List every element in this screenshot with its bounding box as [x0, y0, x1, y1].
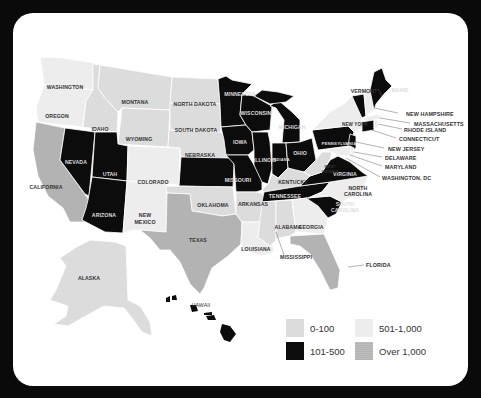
label-indiana: INDIANA [272, 157, 289, 162]
state-new-mexico[interactable] [123, 181, 167, 233]
label-oregon: OREGON [45, 113, 69, 119]
label-maine: MAINE [391, 87, 409, 93]
label-hawaii: HAWAII [192, 302, 211, 308]
label-new-hampshire: NEW HAMPSHIRE [406, 111, 454, 117]
label-montana: MONTANA [122, 99, 149, 105]
legend-swatch-101-500 [286, 342, 304, 360]
label-wyoming: WYOMING [126, 136, 153, 142]
legend-item-101-500: 101-500 [286, 342, 345, 360]
label-delaware: DELAWARE [385, 155, 417, 161]
label-minnesota: MINNESOTA [224, 91, 256, 97]
legend-item-0-100: 0-100 [286, 319, 334, 337]
label-california: CALIFORNIA [30, 184, 63, 190]
label-rhode-island: RHODE ISLAND [404, 127, 446, 133]
label-kansas: KANSAS [195, 185, 218, 191]
label-colorado: COLORADO [137, 179, 168, 185]
label-west-virginia-1: WEST [325, 165, 336, 169]
label-north-dakota: NORTH DAKOTA [174, 101, 217, 107]
label-iowa: IOWA [233, 139, 247, 145]
label-ohio: OHIO [293, 150, 307, 156]
label-new-mexico-1: NEW [139, 212, 151, 218]
label-west-virginia-2: VIRGINIA [322, 170, 339, 174]
label-mississippi: MISSISSIPPI [280, 254, 312, 260]
label-nebraska: NEBRASKA [185, 152, 215, 158]
label-alaska: ALASKA [78, 275, 100, 281]
label-louisiana: LOUISIANA [241, 246, 271, 252]
label-new-mexico-2: MEXICO [134, 219, 155, 225]
label-tennessee: TENNESSEE [269, 193, 302, 199]
label-idaho: IDAHO [91, 126, 108, 132]
state-florida[interactable] [290, 234, 340, 290]
label-washington: WASHINGTON [47, 84, 84, 90]
label-kentucky: KENTUCKY [278, 179, 308, 185]
label-maryland: MARYLAND [385, 164, 416, 170]
state-rhode-island[interactable] [374, 120, 378, 128]
legend-label-101-500: 101-500 [310, 346, 345, 357]
state-alaska[interactable] [50, 240, 152, 336]
label-arizona: ARIZONA [92, 212, 116, 218]
label-new-jersey: NEW JERSEY [388, 146, 425, 152]
label-texas: TEXAS [189, 237, 207, 243]
legend-swatch-0-100 [286, 319, 304, 337]
state-arkansas[interactable] [236, 192, 264, 222]
label-south-carolina-2: CAROLINA [331, 207, 359, 213]
legend-label-501-1000: 501-1,000 [379, 323, 422, 334]
state-michigan[interactable] [270, 100, 300, 143]
label-florida: FLORIDA [366, 262, 391, 268]
state-north-dakota[interactable] [170, 77, 220, 104]
label-missouri: MISSOURI [225, 177, 252, 183]
label-nevada: NEVADA [65, 159, 87, 165]
legend-item-over-1000: Over 1,000 [355, 342, 426, 360]
legend-label-over-1000: Over 1,000 [379, 346, 426, 357]
legend-item-501-1000: 501-1,000 [355, 319, 422, 337]
label-arkansas: ARKANSAS [238, 201, 269, 207]
label-georgia: GEORGIA [298, 224, 323, 230]
label-new-york: NEW YORK [342, 122, 369, 127]
label-connecticut: CONNECTICUT [399, 136, 440, 142]
legend-swatch-501-1000 [355, 319, 373, 337]
label-oklahoma: OKLAHOMA [197, 202, 228, 208]
legend-label-0-100: 0-100 [310, 323, 334, 334]
label-north-carolina-2: CAROLINA [344, 191, 372, 197]
map-card: WASHINGTON OREGON CALIFORNIA IDAHO NEVAD… [13, 13, 468, 386]
label-vermont: VERMONT [351, 88, 378, 94]
label-south-dakota: SOUTH DAKOTA [175, 127, 218, 133]
legend-swatch-over-1000 [355, 342, 373, 360]
label-wisconsin: WISCONSIN [241, 110, 272, 116]
label-utah: UTAH [103, 171, 118, 177]
label-michigan: MICHIGAN [278, 124, 305, 130]
label-washington-dc: WASHINGTON, DC [382, 175, 431, 181]
label-pennsylvania: PENNSYLVANIA [322, 141, 358, 146]
